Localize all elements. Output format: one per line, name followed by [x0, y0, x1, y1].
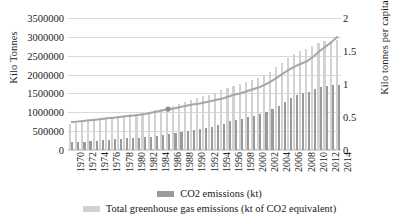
- y-tick-left: 1500000: [27, 88, 64, 99]
- y-tick-left: 500000: [33, 126, 65, 137]
- x-tick-label: 1986: [172, 152, 183, 172]
- x-tick-label: 2000: [257, 152, 268, 172]
- y-tick-left: 3000000: [27, 31, 64, 42]
- y-tick-right: 1.5: [343, 46, 356, 57]
- x-tick-label: 1992: [209, 152, 220, 172]
- x-tick-label: 1982: [148, 152, 159, 172]
- x-tick-label: 2010: [318, 152, 329, 172]
- y-tick-left: 3500000: [27, 13, 64, 24]
- y-tick-right: 0.5: [343, 112, 356, 123]
- y-tick-left: 2500000: [27, 50, 64, 61]
- x-tick-label: 1978: [124, 152, 135, 172]
- plot-area: [68, 18, 341, 150]
- chart-legend: CO2 emissions (kt) Total greenhouse gas …: [0, 186, 419, 216]
- x-tick-label: 1976: [111, 152, 122, 172]
- y-tick-right: 2: [343, 13, 348, 24]
- x-tick-label: 1972: [87, 152, 98, 172]
- x-tick-label: 1980: [136, 152, 147, 172]
- y-tick-left: 0: [59, 145, 64, 156]
- x-tick-label: 2014: [342, 152, 353, 172]
- legend-label-co2: CO2 emissions (kt): [180, 188, 262, 199]
- legend-item-ghg: Total greenhouse gas emissions (kt of CO…: [0, 201, 419, 216]
- y-tick-left: 1000000: [27, 107, 64, 118]
- per-capita-line: [68, 18, 341, 150]
- gridline: [68, 150, 341, 151]
- legend-swatch-co2: [157, 191, 174, 197]
- x-tick-label: 1998: [245, 152, 256, 172]
- y-axis-right-title: Kilo tonnes per capita: [379, 0, 390, 108]
- chart-figure: Kilo Tonnes Kilo tonnes per capita 05000…: [0, 0, 419, 224]
- x-tick-label: 1974: [99, 152, 110, 172]
- legend-swatch-ghg: [83, 206, 100, 212]
- x-tick-label: 1994: [221, 152, 232, 172]
- legend-label-ghg: Total greenhouse gas emissions (kt of CO…: [106, 203, 337, 214]
- y-tick-right: 1: [343, 79, 348, 90]
- x-tick-label: 2006: [293, 152, 304, 172]
- x-tick-label: 2002: [269, 152, 280, 172]
- line-marker: [166, 106, 171, 111]
- legend-item-co2: CO2 emissions (kt): [0, 186, 419, 201]
- x-tick-label: 1970: [75, 152, 86, 172]
- y-tick-left: 2000000: [27, 69, 64, 80]
- x-tick-label: 2008: [306, 152, 317, 172]
- x-tick-label: 1984: [160, 152, 171, 172]
- x-tick-label: 2012: [330, 152, 341, 172]
- x-tick-label: 1990: [196, 152, 207, 172]
- x-tick-label: 1988: [184, 152, 195, 172]
- x-tick-label: 1996: [233, 152, 244, 172]
- x-tick-label: 2004: [281, 152, 292, 172]
